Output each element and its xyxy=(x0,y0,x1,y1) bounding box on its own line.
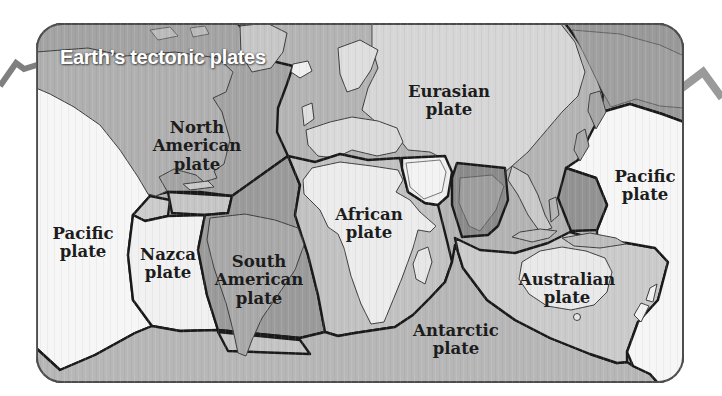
label-eurasian-plate: Eurasian plate xyxy=(408,83,490,120)
tasmania xyxy=(574,314,581,321)
map-title: Earth’s tectonic plates xyxy=(60,46,266,69)
label-south-american-plate: South American plate xyxy=(215,253,303,308)
label-african-plate: African plate xyxy=(335,206,402,243)
label-pacific-plate-west: Pacific plate xyxy=(52,225,113,262)
label-pacific-plate-east: Pacific plate xyxy=(614,168,675,205)
label-antarctic-plate: Antarctic plate xyxy=(413,322,499,359)
tectonic-plates-figure: Earth’s tectonic plates North American p… xyxy=(0,0,722,396)
label-north-american-plate: North American plate xyxy=(153,119,241,174)
label-australian-plate: Australian plate xyxy=(519,271,615,308)
plate-caribbean xyxy=(168,192,232,215)
label-nazca-plate: Nazca plate xyxy=(140,246,196,283)
